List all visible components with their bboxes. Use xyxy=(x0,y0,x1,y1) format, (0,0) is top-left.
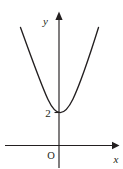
origin-label: O xyxy=(47,150,55,161)
x-axis-label: x xyxy=(113,153,119,165)
y-axis xyxy=(55,12,62,169)
y-axis-label: y xyxy=(42,15,48,27)
y-intercept-label: 2 xyxy=(45,107,51,119)
x-axis-arrowhead-icon xyxy=(112,142,120,149)
y-axis-arrowhead-icon xyxy=(55,12,62,21)
parabola-figure: y x O 2 xyxy=(0,0,123,169)
coordinate-plot-svg: y x O 2 xyxy=(0,0,123,169)
x-axis xyxy=(5,142,120,149)
